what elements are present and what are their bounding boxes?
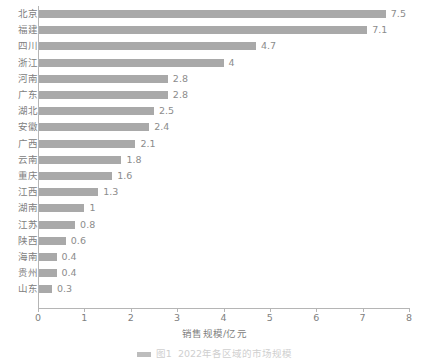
bar xyxy=(38,140,135,148)
bar-value-label: 2.8 xyxy=(168,74,188,84)
bar-row: 山东0.3 xyxy=(0,281,429,297)
bar-row: 安徽2.4 xyxy=(0,119,429,135)
bar xyxy=(38,91,168,99)
bar xyxy=(38,253,57,261)
category-label: 安徽 xyxy=(18,123,38,133)
bar-value-label: 7.5 xyxy=(386,9,406,19)
category-label: 广西 xyxy=(18,139,38,149)
bar-row: 湖南1 xyxy=(0,200,429,216)
bar-track: 2.4 xyxy=(38,123,409,131)
bar-row: 广东2.8 xyxy=(0,87,429,103)
bar-row: 浙江4 xyxy=(0,55,429,71)
category-label: 海南 xyxy=(18,252,38,262)
x-tick-label: 7 xyxy=(360,313,366,323)
x-tick-label: 2 xyxy=(128,313,134,323)
bar-value-label: 7.1 xyxy=(367,26,387,36)
bar-track: 1 xyxy=(38,204,409,212)
bar-value-label: 1.3 xyxy=(98,187,118,197)
bar xyxy=(38,59,224,67)
bar-track: 0.8 xyxy=(38,221,409,229)
category-label: 北京 xyxy=(18,9,38,19)
category-label: 贵州 xyxy=(18,268,38,278)
category-label: 河南 xyxy=(18,74,38,84)
bar-track: 1.3 xyxy=(38,188,409,196)
bar-value-label: 0.8 xyxy=(75,220,95,230)
x-tick-label: 0 xyxy=(35,313,41,323)
bar xyxy=(38,107,154,115)
bar-track: 2.8 xyxy=(38,91,409,99)
bar-track: 0.4 xyxy=(38,253,409,261)
bar-row: 海南0.4 xyxy=(0,249,429,265)
bar-row: 北京7.5 xyxy=(0,6,429,22)
bar-track: 0.3 xyxy=(38,285,409,293)
bar-row: 陕西0.6 xyxy=(0,233,429,249)
bar-track: 0.4 xyxy=(38,269,409,277)
category-label: 浙江 xyxy=(18,58,38,68)
bar-track: 1.6 xyxy=(38,172,409,180)
bar-value-label: 0.3 xyxy=(52,285,72,295)
bar-track: 7.1 xyxy=(38,26,409,34)
category-label: 四川 xyxy=(18,42,38,52)
bar xyxy=(38,10,386,18)
category-label: 陕西 xyxy=(18,236,38,246)
bar-track: 4.7 xyxy=(38,42,409,50)
category-label: 福建 xyxy=(18,26,38,36)
bar-row: 广西2.1 xyxy=(0,136,429,152)
x-tick-label: 3 xyxy=(174,313,180,323)
bar xyxy=(38,42,256,50)
x-axis-title: 销售规模/亿元 xyxy=(0,329,429,339)
bar-value-label: 2.5 xyxy=(154,106,174,116)
bar xyxy=(38,221,75,229)
bar-row: 云南1.8 xyxy=(0,152,429,168)
bar-row: 四川4.7 xyxy=(0,38,429,54)
bar-value-label: 0.4 xyxy=(57,268,77,278)
bar-value-label: 2.4 xyxy=(149,123,169,133)
bar-row: 河南2.8 xyxy=(0,71,429,87)
bar-value-label: 2.1 xyxy=(135,139,155,149)
x-tick-label: 8 xyxy=(406,313,412,323)
bar-value-label: 2.8 xyxy=(168,90,188,100)
bar-row: 江苏0.8 xyxy=(0,216,429,232)
bar-rows: 北京7.5福建7.1四川4.7浙江4河南2.8广东2.8湖北2.5安徽2.4广西… xyxy=(0,6,429,297)
x-tick-label: 5 xyxy=(267,313,273,323)
category-label: 山东 xyxy=(18,285,38,295)
bar-track: 1.8 xyxy=(38,156,409,164)
bar-value-label: 1.6 xyxy=(112,171,132,181)
x-tick-label: 6 xyxy=(313,313,319,323)
bar-row: 湖北2.5 xyxy=(0,103,429,119)
bar-row: 贵州0.4 xyxy=(0,265,429,281)
bar xyxy=(38,237,66,245)
bar-row: 福建7.1 xyxy=(0,22,429,38)
bar xyxy=(38,75,168,83)
bar xyxy=(38,188,98,196)
bar-value-label: 0.4 xyxy=(57,252,77,262)
bar-track: 7.5 xyxy=(38,10,409,18)
x-tick-label: 4 xyxy=(220,313,226,323)
bar-track: 4 xyxy=(38,59,409,67)
category-label: 湖南 xyxy=(18,204,38,214)
category-label: 重庆 xyxy=(18,171,38,181)
bar xyxy=(38,26,367,34)
bar-value-label: 1.8 xyxy=(121,155,141,165)
bar-value-label: 4.7 xyxy=(256,42,276,52)
plot-area: 北京7.5福建7.1四川4.7浙江4河南2.8广东2.8湖北2.5安徽2.4广西… xyxy=(0,6,429,308)
bar xyxy=(38,204,84,212)
x-tick-label: 1 xyxy=(81,313,87,323)
caption-marker-icon xyxy=(137,352,151,357)
bar xyxy=(38,156,121,164)
category-label: 广东 xyxy=(18,90,38,100)
bar xyxy=(38,269,57,277)
category-label: 湖北 xyxy=(18,106,38,116)
bar-row: 重庆1.6 xyxy=(0,168,429,184)
bar-track: 2.1 xyxy=(38,140,409,148)
figure-caption: 图1 2022年各区域的市场规模 xyxy=(0,349,429,359)
bar-row: 江西1.3 xyxy=(0,184,429,200)
bar xyxy=(38,285,52,293)
bar-track: 0.6 xyxy=(38,237,409,245)
caption-text: 2022年各区域的市场规模 xyxy=(178,349,292,359)
category-label: 江西 xyxy=(18,187,38,197)
category-label: 江苏 xyxy=(18,220,38,230)
bar-value-label: 1 xyxy=(84,204,95,214)
bar-track: 2.5 xyxy=(38,107,409,115)
